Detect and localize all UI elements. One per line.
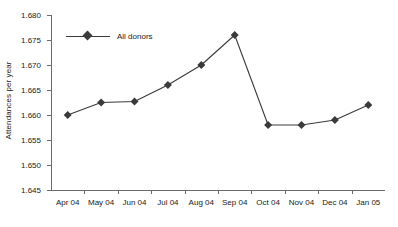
data-point-marker (264, 121, 272, 129)
legend-label-all-donors: All donors (117, 32, 153, 41)
y-tick-label: 1.665 (21, 86, 41, 95)
x-tick-mark (84, 190, 85, 194)
plot-area: 1.6801.6751.6701.6651.6601.6551.6501.645… (51, 15, 385, 190)
chart-figure: Attendances per year 1.6801.6751.6701.66… (0, 0, 398, 227)
data-point-marker (298, 121, 306, 129)
legend: All donors (66, 31, 153, 41)
data-point-marker (131, 98, 139, 106)
data-point-marker (364, 101, 372, 109)
data-point-marker (64, 111, 72, 119)
x-tick-label: Jun 04 (122, 198, 146, 207)
x-tick-label: Aug 04 (189, 198, 214, 207)
x-tick-label: Dec 04 (322, 198, 347, 207)
x-tick-mark (318, 190, 319, 194)
y-tick-label: 1.675 (21, 36, 41, 45)
x-tick-mark (352, 190, 353, 194)
y-axis-title-text: Attendances per year (4, 61, 13, 139)
y-tick-label: 1.655 (21, 136, 41, 145)
legend-swatch-all-donors (66, 31, 110, 41)
data-point-marker (97, 99, 105, 107)
x-tick-mark (251, 190, 252, 194)
legend-diamond-icon (83, 31, 93, 41)
series-all-donors (51, 15, 385, 190)
x-tick-mark (218, 190, 219, 194)
x-tick-mark (285, 190, 286, 194)
x-tick-label: Oct 04 (256, 198, 280, 207)
x-tick-mark (151, 190, 152, 194)
x-tick-label: May 04 (88, 198, 114, 207)
x-tick-label: Apr 04 (56, 198, 80, 207)
y-tick-label: 1.670 (21, 61, 41, 70)
series-markers (64, 31, 373, 129)
x-tick-label: Nov 04 (289, 198, 314, 207)
x-tick-mark (118, 190, 119, 194)
x-tick-mark (185, 190, 186, 194)
series-line (68, 35, 369, 125)
y-axis-title: Attendances per year (0, 0, 16, 200)
y-tick-label: 1.680 (21, 11, 41, 20)
y-tick-label: 1.660 (21, 111, 41, 120)
x-tick-label: Sep 04 (222, 198, 247, 207)
x-tick-label: Jul 04 (157, 198, 178, 207)
data-point-marker (164, 81, 172, 89)
y-tick-label: 1.645 (21, 186, 41, 195)
x-tick-label: Jan 05 (356, 198, 380, 207)
y-tick-label: 1.650 (21, 161, 41, 170)
y-tick-mark (47, 190, 51, 191)
data-point-marker (331, 116, 339, 124)
